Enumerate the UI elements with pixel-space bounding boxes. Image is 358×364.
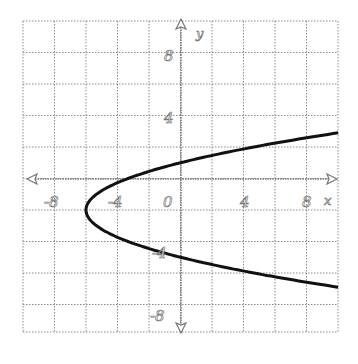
tick-label-y-8: 8 xyxy=(164,47,174,65)
tick-label-y-4: 4 xyxy=(163,109,174,127)
tick-label-x-8: 8 xyxy=(302,193,312,211)
tick-label-x-4: 4 xyxy=(239,193,250,211)
tick-label-x-neg4: -4 xyxy=(108,193,123,211)
coordinate-plane: -8 -4 0 4 8 x 8 4 -4 -8 y xyxy=(0,0,358,364)
tick-label-origin: 0 xyxy=(163,193,173,211)
y-axis-label: y xyxy=(195,26,204,41)
x-axis-right-arrow-icon xyxy=(327,174,337,184)
tick-label-y-neg4: -4 xyxy=(152,244,167,262)
tick-label-y-neg8: -8 xyxy=(150,307,165,325)
x-axis-left-arrow-icon xyxy=(27,174,37,184)
tick-label-x-neg8: -8 xyxy=(44,193,59,211)
axes xyxy=(27,19,337,333)
x-axis-label: x xyxy=(324,193,332,208)
